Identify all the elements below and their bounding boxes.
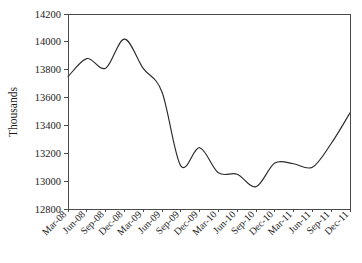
y-axis-tick-label: 13200 [35,148,61,159]
y-axis-tick-label: 13400 [35,120,61,131]
line-chart: 1280013000132001340013600138001400014200… [0,0,362,263]
y-axis-tick-label: 13000 [35,176,61,187]
chart-container: 1280013000132001340013600138001400014200… [0,0,362,263]
y-axis-tick-label: 14200 [35,9,61,20]
y-axis-tick-label: 13600 [35,92,61,103]
plot-area-background [68,14,350,209]
y-axis-title: Thousands [7,87,19,137]
y-axis-tick-label: 13800 [35,64,61,75]
y-axis-tick-label: 14000 [35,36,61,47]
